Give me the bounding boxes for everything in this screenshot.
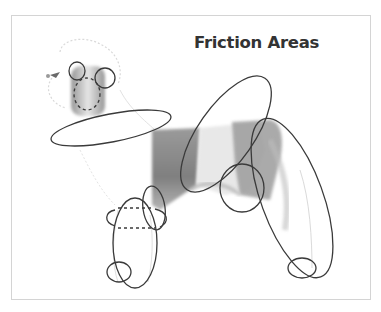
dog-sketch [46,39,312,282]
front-leg-area [113,198,157,288]
front-leg-band-left [107,210,115,226]
front-foot-area [107,262,131,282]
poodle-illustration [0,0,381,312]
figure-title: Friction Areas [194,33,319,52]
